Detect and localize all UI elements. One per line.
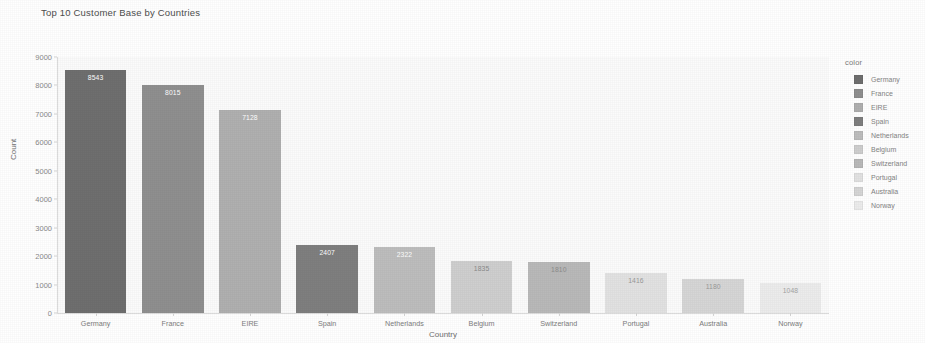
bar-slot: 1048: [752, 57, 829, 313]
bar-slot: 1180: [675, 57, 752, 313]
y-axis-tick-label: 1000: [35, 280, 52, 289]
x-axis-tick-mark: [636, 313, 637, 316]
y-axis-title: Count: [9, 139, 18, 160]
bar-value-label: 1416: [597, 278, 674, 285]
x-axis-title: Country: [57, 330, 829, 339]
bar-value-label: 8015: [134, 90, 211, 97]
bar-value-label: 1048: [752, 288, 829, 295]
legend-swatch-icon: [854, 131, 863, 140]
legend-item-label: Portugal: [871, 174, 897, 181]
y-axis-tick-label: 0: [48, 309, 52, 318]
bar-value-label: 1835: [443, 266, 520, 273]
legend-item[interactable]: France: [845, 86, 923, 100]
x-axis-tick-mark: [482, 313, 483, 316]
bar[interactable]: [142, 85, 204, 313]
bar-value-label: 2407: [289, 250, 366, 257]
bar-slot: 8543: [57, 57, 134, 313]
legend-swatch-icon: [854, 89, 863, 98]
legend-swatch-icon: [854, 201, 863, 210]
legend-item-label: Spain: [871, 118, 889, 125]
legend: color GermanyFranceEIRESpainNetherlandsB…: [845, 58, 923, 212]
x-axis-tick-label: Portugal: [597, 319, 674, 328]
bar-value-label: 2322: [366, 252, 443, 259]
bar[interactable]: [65, 70, 127, 313]
x-axis-tick-mark: [559, 313, 560, 316]
x-axis-tick-label: EIRE: [211, 319, 288, 328]
y-axis-tick-label: 4000: [35, 195, 52, 204]
x-axis-tick-mark: [790, 313, 791, 316]
legend-item-label: EIRE: [871, 104, 887, 111]
legend-item-label: Netherlands: [871, 132, 909, 139]
bar-value-label: 7128: [211, 115, 288, 122]
legend-item[interactable]: EIRE: [845, 100, 923, 114]
legend-item[interactable]: Australia: [845, 184, 923, 198]
legend-swatch-icon: [854, 173, 863, 182]
chart-container: Top 10 Customer Base by Countries Count …: [0, 0, 925, 343]
y-axis-tick-label: 7000: [35, 109, 52, 118]
bar[interactable]: [219, 110, 281, 313]
x-axis-tick-label: Belgium: [443, 319, 520, 328]
x-axis-tick-mark: [404, 313, 405, 316]
y-axis-tick-label: 2000: [35, 252, 52, 261]
legend-item-label: Belgium: [871, 146, 896, 153]
bar-slot: 7128: [211, 57, 288, 313]
legend-item-label: Germany: [871, 76, 900, 83]
y-axis-tick-label: 8000: [35, 81, 52, 90]
bar-value-label: 8543: [57, 75, 134, 82]
y-axis-tick-label: 3000: [35, 223, 52, 232]
y-axis-tick-label: 5000: [35, 166, 52, 175]
bar-value-label: 1180: [675, 284, 752, 291]
chart-title: Top 10 Customer Base by Countries: [41, 7, 200, 18]
bar-slot: 8015: [134, 57, 211, 313]
plot-area: 0100020003000400050006000700080009000 85…: [57, 57, 829, 313]
x-axis-tick-label: Australia: [675, 319, 752, 328]
bar-series: 8543801571282407232218351810141611801048: [57, 57, 829, 313]
x-axis-tick-label: Germany: [57, 319, 134, 328]
legend-swatch-icon: [854, 187, 863, 196]
x-axis-tick-mark: [250, 313, 251, 316]
legend-item[interactable]: Germany: [845, 72, 923, 86]
legend-swatch-icon: [854, 145, 863, 154]
x-axis-tick-mark: [96, 313, 97, 316]
x-axis-tick-mark: [173, 313, 174, 316]
bar-slot: 1835: [443, 57, 520, 313]
legend-item[interactable]: Switzerland: [845, 156, 923, 170]
legend-item[interactable]: Norway: [845, 198, 923, 212]
x-axis-tick-label: Netherlands: [366, 319, 443, 328]
bar-slot: 1810: [520, 57, 597, 313]
legend-title: color: [845, 58, 923, 67]
legend-item-label: Australia: [871, 188, 898, 195]
x-axis-tick-label: Switzerland: [520, 319, 597, 328]
legend-item-label: France: [871, 90, 893, 97]
legend-swatch-icon: [854, 117, 863, 126]
legend-swatch-icon: [854, 159, 863, 168]
legend-item[interactable]: Belgium: [845, 142, 923, 156]
x-axis-tick-mark: [713, 313, 714, 316]
x-axis-tick-label: Norway: [752, 319, 829, 328]
bar-slot: 2322: [366, 57, 443, 313]
bar-value-label: 1810: [520, 267, 597, 274]
legend-items: GermanyFranceEIRESpainNetherlandsBelgium…: [845, 72, 923, 212]
bar-slot: 1416: [597, 57, 674, 313]
x-axis-tick-mark: [327, 313, 328, 316]
legend-swatch-icon: [854, 75, 863, 84]
y-axis-tick-label: 6000: [35, 138, 52, 147]
legend-item-label: Switzerland: [871, 160, 907, 167]
legend-swatch-icon: [854, 103, 863, 112]
x-axis-tick-label: France: [134, 319, 211, 328]
bar-slot: 2407: [289, 57, 366, 313]
legend-item[interactable]: Spain: [845, 114, 923, 128]
legend-item[interactable]: Portugal: [845, 170, 923, 184]
legend-item-label: Norway: [871, 202, 895, 209]
y-axis-tick-label: 9000: [35, 53, 52, 62]
x-axis-tick-label: Spain: [289, 319, 366, 328]
legend-item[interactable]: Netherlands: [845, 128, 923, 142]
